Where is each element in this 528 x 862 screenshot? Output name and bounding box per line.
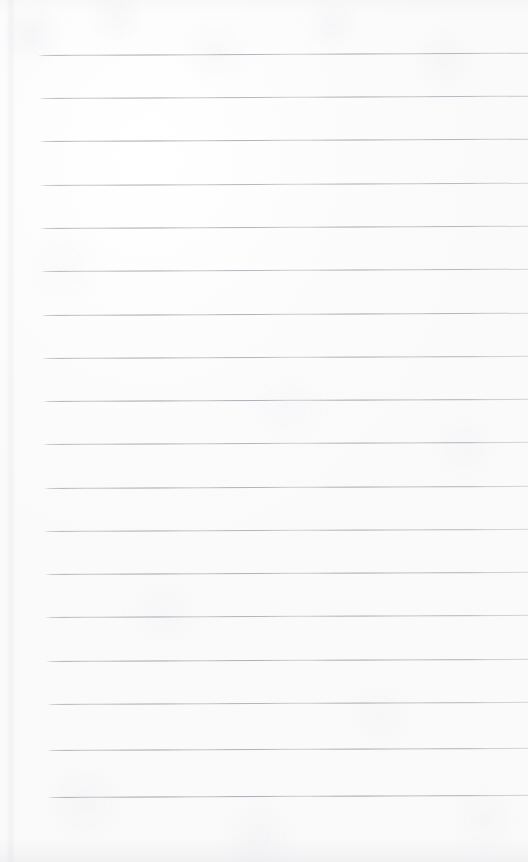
page-handwriting-area xyxy=(0,0,528,862)
scanned-page xyxy=(0,0,528,862)
